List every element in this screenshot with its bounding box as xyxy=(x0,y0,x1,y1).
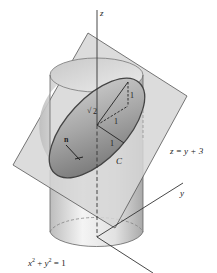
curve-c-label: C xyxy=(116,156,123,166)
sqrt2-radical: √ xyxy=(87,106,92,115)
segment-label-radius: 1 xyxy=(110,139,114,148)
sqrt2-value: 2 xyxy=(93,107,97,116)
y-axis-label: y xyxy=(179,188,184,198)
normal-vector-label: n xyxy=(64,135,69,144)
segment-label-vertical: 1 xyxy=(130,91,134,100)
z-axis-label: z xyxy=(99,8,104,18)
cylinder-plane-diagram: z y z = y + 3 C n √ 2 1 1 1 x2 + y2 = 1 xyxy=(0,0,217,273)
plane-equation-label: z = y + 3 xyxy=(169,146,204,156)
segment-label-diagonal: 1 xyxy=(114,117,118,126)
svg-text:x2 + y2 = 1: x2 + y2 = 1 xyxy=(27,257,66,268)
cylinder-equation-label: x2 + y2 = 1 xyxy=(27,257,66,268)
